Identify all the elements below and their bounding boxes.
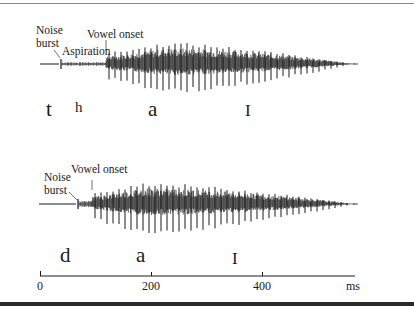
label-noise-burst-bottom-1: Noise — [44, 171, 71, 183]
tick-label-0: 0 — [37, 280, 43, 292]
segment-h: h — [75, 96, 83, 118]
frame-bottom-border — [0, 302, 414, 306]
label-noise-burst-top-2: burst — [36, 37, 59, 49]
label-vowel-onset-top: Vowel onset — [87, 28, 143, 40]
leader-noise-burst-top — [54, 50, 60, 58]
axis-unit-ms: ms — [346, 280, 360, 292]
segment-d: d — [60, 244, 71, 266]
time-axis — [40, 271, 355, 276]
label-noise-burst-top-1: Noise — [36, 24, 63, 36]
segment-a-bottom: a — [136, 244, 145, 266]
leader-noise-burst-bottom — [69, 192, 77, 200]
label-noise-burst-bottom-2: burst — [44, 184, 67, 196]
segment-t: t — [46, 98, 52, 120]
label-aspiration: Aspiration — [62, 45, 111, 57]
segment-i-bottom: I — [232, 248, 238, 270]
waveform-dai — [39, 184, 358, 234]
segment-a-top: a — [148, 98, 157, 120]
segment-i-top: I — [245, 100, 251, 122]
tick-label-400: 400 — [253, 280, 271, 292]
label-vowel-onset-bottom: Vowel onset — [71, 163, 127, 175]
tick-label-200: 200 — [142, 280, 160, 292]
